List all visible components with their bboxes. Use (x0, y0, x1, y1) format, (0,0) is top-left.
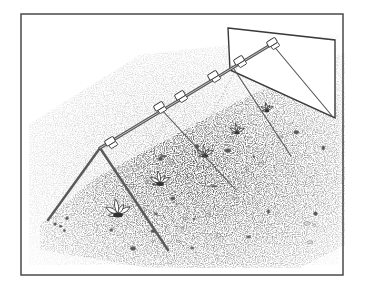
a-frame-garden-illustration (0, 0, 372, 298)
illustration-canvas: A-frame plant cover over a garden row pe… (0, 0, 372, 298)
